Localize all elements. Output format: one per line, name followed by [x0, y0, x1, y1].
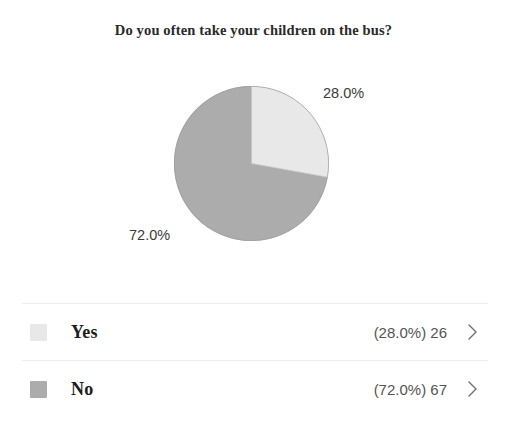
- legend-label-no: No: [71, 379, 93, 400]
- pie-chart: 28.0% 72.0%: [0, 60, 507, 285]
- legend-swatch-no: [30, 381, 47, 398]
- chevron-right-icon[interactable]: [467, 380, 478, 398]
- legend-value-no: (72.0%) 67: [374, 381, 447, 398]
- page-title: Do you often take your children on the b…: [0, 22, 507, 39]
- legend-swatch-yes: [30, 324, 47, 341]
- pie-label-no: 72.0%: [129, 227, 170, 243]
- legend-list: Yes (28.0%) 26 No (72.0%) 67: [22, 303, 488, 417]
- legend-label-yes: Yes: [71, 322, 98, 343]
- legend-item-yes[interactable]: Yes (28.0%) 26: [22, 303, 488, 360]
- legend-value-yes: (28.0%) 26: [374, 324, 447, 341]
- pie-label-yes: 28.0%: [323, 85, 364, 101]
- chevron-right-icon[interactable]: [467, 323, 478, 341]
- legend-item-no[interactable]: No (72.0%) 67: [22, 360, 488, 417]
- pie-slice-yes: [252, 86, 329, 177]
- pie-chart-svg: [174, 86, 329, 241]
